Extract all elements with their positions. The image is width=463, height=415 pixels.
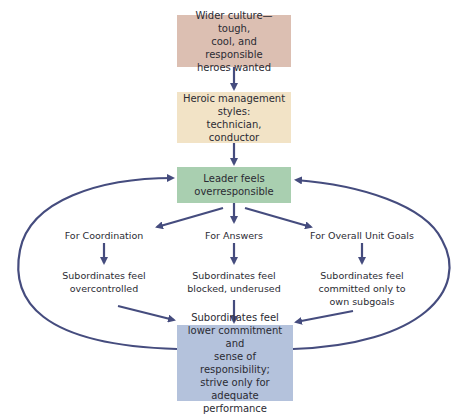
leader-line-1: Leader feels [194,172,273,185]
leader-line-2: overresponsible [194,185,273,198]
branch-heading-coordination: For Coordination [54,229,154,242]
branch-result-answers: Subordinates feel blocked, underused [179,269,289,295]
leader-box: Leader feels overresponsible [177,167,291,203]
outcome-line-3: sense of responsibility; [181,350,289,376]
arrow-leader-to-unit-goals [245,208,311,227]
arrow-subgoals-to-outcome [296,311,353,322]
feedback-loop-right [293,180,450,349]
culture-box: Wider culture—tough, cool, and responsib… [177,15,291,67]
branch-heading-answers: For Answers [184,229,284,242]
outcome-line-5: adequate performance [181,389,289,415]
culture-line-3: heroes wanted [181,61,287,74]
styles-line-3: technician, conductor [181,118,287,144]
unit-goals-result-line-2: committed only to [307,282,417,295]
unit-goals-result-line-3: own subgoals [307,295,417,308]
styles-line-1: Heroic management [181,92,287,105]
coordination-result-line-1: Subordinates feel [49,269,159,282]
outcome-box: Subordinates feel lower commitment and s… [177,325,293,401]
coordination-result-line-2: overcontrolled [49,282,159,295]
unit-goals-result-line-1: Subordinates feel [307,269,417,282]
arrow-leader-to-coordination [157,208,223,227]
outcome-line-4: strive only for [181,376,289,389]
branch-result-coordination: Subordinates feel overcontrolled [49,269,159,295]
arrow-overcontrolled-to-outcome [118,306,174,320]
branch-result-unit-goals: Subordinates feel committed only to own … [307,269,417,308]
styles-line-2: styles: [181,105,287,118]
culture-line-1: Wider culture—tough, [181,9,287,35]
feedback-loop-left [18,178,177,349]
answers-result-line-1: Subordinates feel [179,269,289,282]
management-styles-box: Heroic management styles: technician, co… [177,92,291,143]
outcome-line-1: Subordinates feel [181,311,289,324]
culture-line-2: cool, and responsible [181,35,287,61]
branch-heading-unit-goals: For Overall Unit Goals [302,229,422,242]
outcome-line-2: lower commitment and [181,324,289,350]
answers-result-line-2: blocked, underused [179,282,289,295]
